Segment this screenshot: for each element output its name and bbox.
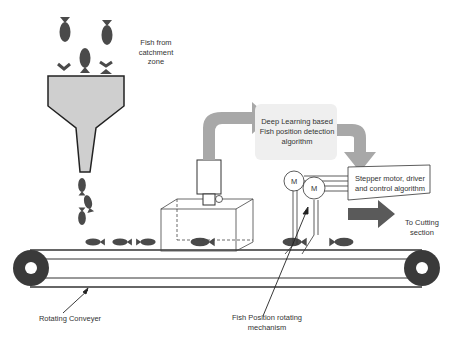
label-line: algorithm (256, 137, 338, 147)
label-detection: Deep Learning based Fish position detect… (256, 117, 338, 147)
label-line: Fish Position rotating (222, 313, 312, 323)
diagram-canvas: M M (0, 0, 456, 342)
label-line: section (396, 228, 448, 238)
label-line: To Cutting (396, 218, 448, 228)
camera (197, 160, 223, 205)
fish-chute-stream (78, 178, 94, 225)
label-conveyor: Rotating Conveyer (30, 314, 110, 324)
hopper-funnel (48, 76, 124, 172)
conveyor-belt (13, 250, 440, 287)
label-line: Stepper motor, driver (348, 174, 432, 184)
label-line: mechanism (222, 323, 312, 333)
label-line: Fish from (126, 38, 186, 48)
motor-1-label: M (291, 177, 297, 186)
label-line: catchment (126, 48, 186, 58)
arrow-detection-to-stepper (337, 124, 376, 172)
label-line: Deep Learning based (256, 117, 338, 127)
label-stepper: Stepper motor, driver and control algori… (348, 174, 432, 194)
label-line: Fish position detection (256, 127, 338, 137)
label-line: and control algorithm (348, 184, 432, 194)
fish-falling-group (58, 17, 113, 74)
fish-on-conveyor (85, 238, 353, 246)
label-output: To Cutting section (396, 218, 448, 237)
label-fish-source: Fish from catchment zone (126, 38, 186, 67)
pointer-arrows (63, 207, 308, 316)
arrow-to-cutting (348, 200, 395, 228)
label-line: zone (126, 57, 186, 67)
label-rotator: Fish Position rotating mechanism (222, 313, 312, 332)
motor-2-label: M (311, 184, 317, 193)
